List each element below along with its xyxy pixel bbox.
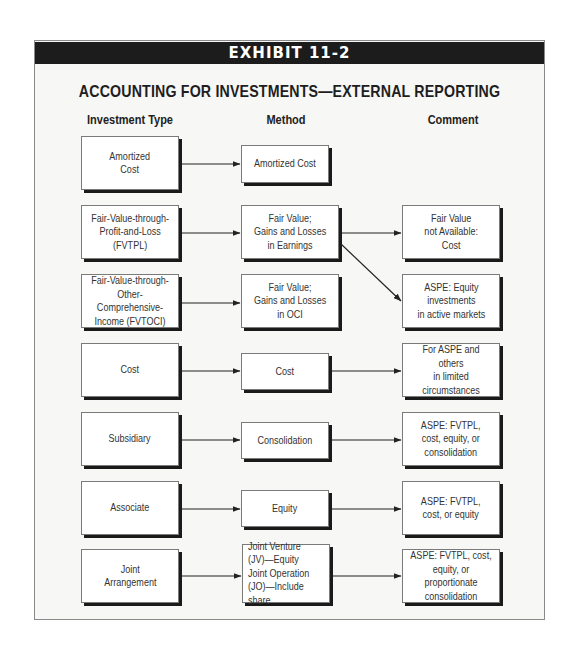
investment-type-box-amortized-cost: Amortized Cost — [81, 136, 179, 190]
investment-type-label: Cost — [121, 363, 140, 377]
investment-type-box-fvtpl: Fair-Value-through- Profit-and-Loss (FVT… — [81, 205, 179, 259]
investment-type-label: Subsidiary — [109, 432, 151, 446]
method-box-cost: Cost — [241, 353, 329, 390]
column-header-comment: Comment — [391, 113, 514, 127]
investment-type-box-fvtoci: Fair-Value-through- Other-Comprehensive-… — [81, 274, 179, 328]
method-box-joint-venture-operation: Joint Venture (JV)—Equity Joint Operatio… — [242, 544, 330, 603]
investment-type-box-associate: Associate — [81, 481, 179, 535]
method-label: Amortized Cost — [254, 157, 316, 171]
investment-type-box-subsidiary: Subsidiary — [81, 412, 179, 466]
method-box-equity: Equity — [241, 490, 329, 527]
investment-type-label: Amortized Cost — [110, 150, 151, 177]
comment-box-aspe-equity-active-markets: ASPE: Equity investments in active marke… — [402, 274, 500, 328]
method-label: Joint Venture (JV)—Equity Joint Operatio… — [248, 540, 318, 608]
exhibit-label: EXHIBIT 11-2 — [35, 42, 544, 64]
method-label: Fair Value; Gains and Losses in Earnings — [254, 212, 326, 253]
comment-label: ASPE: FVTPL, cost, equity, or proportion… — [410, 549, 493, 603]
investment-type-label: Fair-Value-through- Profit-and-Loss (FVT… — [91, 212, 169, 253]
method-box-fair-value-earnings: Fair Value; Gains and Losses in Earnings — [241, 205, 339, 259]
method-box-fair-value-oci: Fair Value; Gains and Losses in OCI — [241, 274, 339, 328]
method-label: Equity — [272, 502, 297, 516]
comment-label: ASPE: FVTPL, cost, or equity — [421, 495, 481, 522]
investment-type-box-joint-arrangement: Joint Arrangement — [81, 549, 179, 603]
comment-box-aspe-associate: ASPE: FVTPL, cost, or equity — [402, 481, 500, 535]
investment-type-box-cost: Cost — [81, 343, 179, 397]
comment-box-fair-value-not-available: Fair Value not Available: Cost — [402, 205, 500, 259]
method-label: Cost — [276, 365, 295, 379]
comment-box-aspe-subsidiary: ASPE: FVTPL, cost, equity, or consolidat… — [402, 412, 500, 466]
diagram-title: ACCOUNTING FOR INVESTMENTS—EXTERNAL REPO… — [71, 82, 509, 101]
comment-label: ASPE: Equity investments in active marke… — [417, 281, 485, 322]
method-label: Consolidation — [258, 434, 313, 448]
investment-type-label: Associate — [110, 501, 149, 515]
comment-label: ASPE: FVTPL, cost, equity, or consolidat… — [421, 419, 481, 460]
method-box-consolidation: Consolidation — [241, 422, 329, 459]
comment-label: Fair Value not Available: Cost — [424, 212, 478, 253]
comment-box-aspe-limited-circumstances: For ASPE and others in limited circumsta… — [402, 343, 500, 397]
column-header-method: Method — [224, 113, 347, 127]
comment-label: For ASPE and others in limited circumsta… — [410, 343, 493, 397]
comment-box-aspe-joint-arrangement: ASPE: FVTPL, cost, equity, or proportion… — [402, 549, 500, 603]
column-header-investment-type: Investment Type — [68, 113, 191, 127]
investment-type-label: Joint Arrangement — [104, 563, 156, 590]
investment-type-label: Fair-Value-through- Other-Comprehensive-… — [89, 274, 172, 328]
method-box-amortized-cost: Amortized Cost — [241, 145, 329, 183]
method-label: Fair Value; Gains and Losses in OCI — [254, 281, 326, 322]
